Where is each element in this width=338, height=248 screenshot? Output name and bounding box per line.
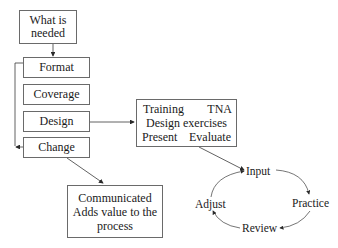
arrow-change-to-outcome: [67, 158, 103, 183]
coverage-box: Coverage: [23, 84, 90, 105]
evaluate-label: Evaluate: [189, 130, 231, 144]
outcome-line3: process: [97, 219, 133, 233]
outcome-line1: Communicated: [78, 191, 151, 205]
change-box: Change: [23, 137, 90, 158]
present-label: Present: [142, 130, 177, 144]
format-box: Format: [23, 57, 90, 78]
outcome-line2: Adds value to the: [73, 205, 157, 219]
change-label: Change: [38, 141, 75, 154]
tna-label: TNA: [207, 102, 232, 116]
coverage-label: Coverage: [34, 88, 80, 101]
what-is-needed-line2: needed: [31, 27, 65, 40]
design-label: Design: [40, 115, 74, 128]
arc-adjust-to-input: [211, 171, 244, 197]
format-label: Format: [39, 61, 74, 74]
cycle-node-adjust: Adjust: [195, 198, 226, 210]
cycle-node-review: Review: [242, 222, 277, 234]
cycle-node-input: Input: [246, 165, 270, 177]
training-label: Training: [143, 102, 184, 116]
arrow-training-to-input: [199, 147, 244, 170]
design-exercises-label: Design exercises: [146, 116, 227, 130]
what-is-needed-box: What is needed: [19, 10, 77, 44]
design-box: Design: [23, 111, 90, 132]
training-box: Training TNA Design exercises Present Ev…: [136, 99, 237, 147]
arc-input-to-practice: [276, 170, 309, 194]
cycle-node-practice: Practice: [292, 197, 329, 209]
arc-review-to-adjust: [213, 211, 240, 228]
arc-practice-to-review: [280, 211, 310, 228]
outcome-box: Communicated Adds value to the process: [67, 185, 163, 238]
